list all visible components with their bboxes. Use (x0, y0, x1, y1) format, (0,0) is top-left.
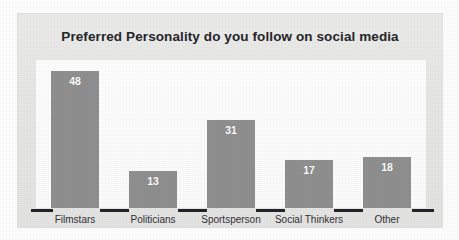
bar[interactable]: 31 (207, 120, 255, 208)
bar-slot: 48 (36, 60, 114, 208)
bar-value-label: 18 (363, 161, 411, 173)
bar-value-label: 48 (51, 75, 99, 87)
bar-value-label: 13 (129, 175, 177, 187)
bars-layer: 48 13 31 17 18 (36, 60, 426, 208)
category-label-filmstars: Filmstars (36, 214, 114, 225)
category-label-sportsperson: Sportsperson (192, 214, 270, 225)
category-label-social-thinkers: Social Thinkers (270, 214, 348, 225)
chart-title: Preferred Personality do you follow on s… (17, 29, 443, 44)
bar[interactable]: 18 (363, 157, 411, 208)
axis-tick (334, 209, 363, 212)
category-axis (36, 208, 426, 213)
category-label-other: Other (348, 214, 426, 225)
bar[interactable]: 13 (129, 171, 177, 208)
chart-panel: Preferred Personality do you follow on s… (17, 13, 443, 228)
bar[interactable]: 17 (285, 160, 333, 208)
bar[interactable]: 48 (51, 71, 99, 208)
bar-slot: 18 (348, 60, 426, 208)
bar-slot: 17 (270, 60, 348, 208)
axis-tick (412, 209, 434, 212)
bar-slot: 31 (192, 60, 270, 208)
bar-value-label: 31 (207, 124, 255, 136)
axis-tick (256, 209, 285, 212)
category-labels: Filmstars Politicians Sportsperson Socia… (36, 214, 426, 234)
bar-value-label: 17 (285, 164, 333, 176)
scanned-page: Preferred Personality do you follow on s… (0, 0, 459, 240)
bar-slot: 13 (114, 60, 192, 208)
category-label-politicians: Politicians (114, 214, 192, 225)
axis-tick (31, 209, 53, 212)
axis-tick (178, 209, 207, 212)
axis-tick (100, 209, 129, 212)
